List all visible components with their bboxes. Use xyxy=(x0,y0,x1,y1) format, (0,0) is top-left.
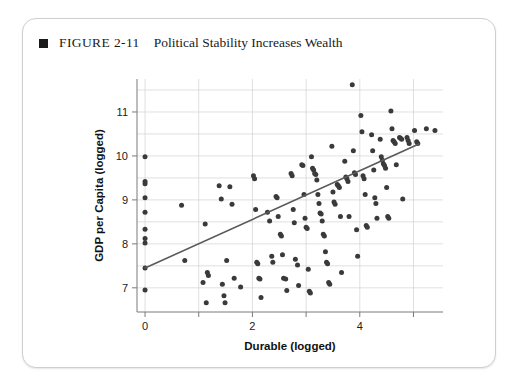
data-point xyxy=(223,300,228,305)
data-point xyxy=(394,162,399,167)
data-point xyxy=(283,277,288,282)
data-point xyxy=(230,202,235,207)
data-point xyxy=(291,207,296,212)
data-point xyxy=(339,270,344,275)
data-point xyxy=(204,300,209,305)
data-point xyxy=(386,216,391,221)
data-point xyxy=(390,126,395,131)
data-point xyxy=(219,197,224,202)
data-point xyxy=(315,192,320,197)
data-point xyxy=(333,202,338,207)
data-point xyxy=(378,137,383,142)
y-axis-title: GDP per Capita (logged) xyxy=(93,129,105,262)
data-point xyxy=(257,277,262,282)
axes xyxy=(132,79,443,317)
data-point xyxy=(143,240,148,245)
data-point xyxy=(206,273,211,278)
data-point xyxy=(284,288,289,293)
data-point xyxy=(384,185,389,190)
data-point xyxy=(358,113,363,118)
data-point xyxy=(253,207,258,212)
x-axis-title: Durable (logged) xyxy=(244,340,336,352)
data-point xyxy=(182,258,187,263)
data-point xyxy=(369,132,374,137)
data-point xyxy=(383,166,388,171)
data-point xyxy=(330,189,335,194)
y-tick-label: 7 xyxy=(122,282,128,294)
data-point xyxy=(217,183,222,188)
data-point xyxy=(255,261,260,266)
data-point xyxy=(424,126,429,131)
data-point xyxy=(143,236,148,241)
data-point xyxy=(363,192,368,197)
data-point xyxy=(313,172,318,177)
data-point xyxy=(293,257,298,262)
data-point xyxy=(143,210,148,215)
data-point xyxy=(393,141,398,146)
data-point xyxy=(322,233,327,238)
data-point xyxy=(323,249,328,254)
gridlines xyxy=(137,79,443,312)
x-tick-label: 0 xyxy=(142,320,148,332)
y-tick-label: 8 xyxy=(122,238,128,250)
data-point xyxy=(296,283,301,288)
data-point xyxy=(371,168,376,173)
data-point xyxy=(337,185,342,190)
data-point xyxy=(143,154,148,159)
data-point xyxy=(143,181,148,186)
data-point xyxy=(308,291,313,296)
data-point xyxy=(280,252,285,257)
data-point xyxy=(355,254,360,259)
y-tick-label: 10 xyxy=(116,150,128,162)
chart-svg: 0247891011Durable (logged)GDP per Capita… xyxy=(23,19,497,369)
data-point xyxy=(362,176,367,181)
data-point xyxy=(201,280,206,285)
scatter-plot: 0247891011Durable (logged)GDP per Capita… xyxy=(23,19,497,369)
data-point xyxy=(342,159,347,164)
y-tick-label: 9 xyxy=(122,194,128,206)
data-point xyxy=(252,176,257,181)
data-point xyxy=(269,254,274,259)
data-point xyxy=(300,163,305,168)
data-point xyxy=(306,267,311,272)
data-point xyxy=(295,262,300,267)
data-point xyxy=(351,148,356,153)
data-point xyxy=(350,82,355,87)
axis-labels: 0247891011Durable (logged)GDP per Capita… xyxy=(93,106,363,352)
data-point xyxy=(143,195,148,200)
data-point xyxy=(143,288,148,293)
data-point xyxy=(372,195,377,200)
data-point xyxy=(276,214,281,219)
data-point xyxy=(412,128,417,133)
data-point xyxy=(345,179,350,184)
data-point xyxy=(309,154,314,159)
data-point xyxy=(399,137,404,142)
data-point xyxy=(388,109,393,114)
data-point xyxy=(224,258,229,263)
data-point xyxy=(329,144,334,149)
data-point xyxy=(227,184,232,189)
data-point xyxy=(238,284,243,289)
figure-card: FIGURE 2-11 Political Stability Increase… xyxy=(22,18,496,368)
data-point xyxy=(279,233,284,238)
data-point xyxy=(143,227,148,232)
y-tick-label: 11 xyxy=(117,106,128,118)
data-point xyxy=(354,227,359,232)
data-point xyxy=(270,260,275,265)
data-point xyxy=(220,282,225,287)
data-point xyxy=(359,129,364,134)
data-point xyxy=(400,197,405,202)
data-point xyxy=(232,276,237,281)
data-point xyxy=(374,216,379,221)
x-tick-label: 4 xyxy=(357,320,363,332)
data-point xyxy=(267,219,272,224)
data-point xyxy=(221,293,226,298)
data-point xyxy=(179,203,184,208)
trend-line xyxy=(145,144,419,268)
data-point xyxy=(370,148,375,153)
data-points xyxy=(143,82,438,305)
data-point xyxy=(327,282,332,287)
data-point xyxy=(316,201,321,206)
data-point xyxy=(203,222,208,227)
data-point xyxy=(303,216,308,221)
